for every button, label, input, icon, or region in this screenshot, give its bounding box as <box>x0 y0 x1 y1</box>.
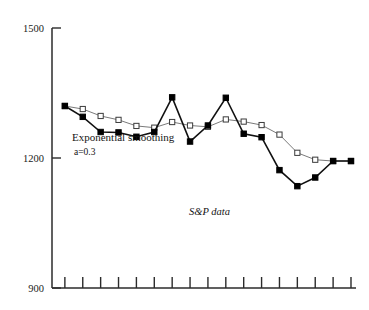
data-point-marker <box>116 117 121 122</box>
line-chart: 90012001500 Exponential smoothing a=0.3 … <box>0 0 369 310</box>
data-point-marker <box>187 139 192 144</box>
y-axis-group: 90012001500 <box>23 23 61 294</box>
chart-container: 90012001500 Exponential smoothing a=0.3 … <box>0 0 369 310</box>
data-point-marker <box>134 123 139 128</box>
annotation-sp-data: S&P data <box>189 206 230 217</box>
data-point-marker <box>259 135 264 140</box>
data-point-marker <box>80 114 85 119</box>
data-point-marker <box>98 113 103 118</box>
data-point-marker <box>295 183 300 188</box>
data-point-marker <box>330 158 335 163</box>
data-point-marker <box>187 123 192 128</box>
data-point-marker <box>62 103 67 108</box>
y-axis-tick-label: 1500 <box>23 23 44 34</box>
annotation-exponential-smoothing: Exponential smoothing <box>72 131 175 143</box>
annotation-alpha: a=0.3 <box>74 147 96 157</box>
data-point-marker <box>295 150 300 155</box>
data-point-marker <box>80 106 85 111</box>
y-axis-tick-label: 900 <box>28 283 44 294</box>
data-point-marker <box>205 123 210 128</box>
data-point-marker <box>241 131 246 136</box>
data-point-marker <box>170 119 175 124</box>
y-axis-tick-label: 1200 <box>23 153 44 164</box>
annotations-group: Exponential smoothing a=0.3 S&P data <box>72 131 230 217</box>
data-point-marker <box>223 95 228 100</box>
data-point-marker <box>348 158 353 163</box>
data-point-marker <box>169 95 174 100</box>
data-point-marker <box>277 132 282 137</box>
data-point-marker <box>313 157 318 162</box>
data-point-marker <box>223 117 228 122</box>
data-point-marker <box>259 122 264 127</box>
y-axis-tick-labels: 90012001500 <box>23 23 44 294</box>
x-axis-group <box>52 277 356 288</box>
data-point-marker <box>313 175 318 180</box>
data-point-marker <box>277 167 282 172</box>
y-axis-ticks <box>52 28 61 288</box>
data-point-marker <box>241 119 246 124</box>
x-axis-ticks <box>65 277 351 288</box>
